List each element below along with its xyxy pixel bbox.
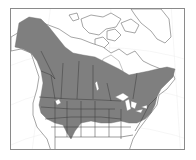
range-map	[11, 9, 185, 150]
map-frame	[10, 8, 185, 150]
